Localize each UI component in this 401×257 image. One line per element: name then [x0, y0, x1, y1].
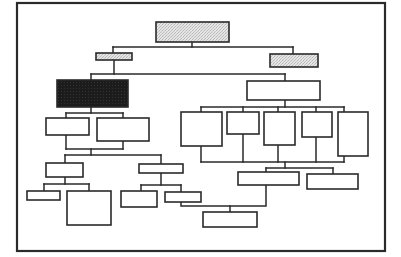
node-leaf-l2	[67, 191, 111, 225]
node-l1-right	[270, 54, 318, 67]
node-leaf-m2	[165, 192, 201, 202]
node-hl-child-2	[97, 118, 149, 141]
node-leaf-m1	[121, 191, 157, 207]
node-merge-2	[307, 174, 358, 189]
node-right-hub	[247, 81, 320, 100]
node-hl-child-1	[46, 118, 89, 135]
node-merge-1	[238, 172, 299, 185]
node-bottom	[203, 212, 257, 227]
node-hub-child-2	[227, 112, 259, 134]
diagram-canvas	[0, 0, 401, 257]
node-sub-mid	[139, 164, 183, 173]
node-highlighted	[57, 80, 128, 107]
node-hub-child-1	[181, 112, 222, 146]
org-chart-diagram	[0, 0, 401, 257]
node-root	[156, 22, 229, 42]
node-sub-left	[46, 163, 83, 177]
node-leaf-l1	[27, 191, 60, 200]
node-l1-left	[96, 53, 132, 60]
node-hub-child-4	[302, 112, 332, 137]
node-hub-child-5	[338, 112, 368, 156]
node-hub-child-3	[264, 112, 295, 145]
